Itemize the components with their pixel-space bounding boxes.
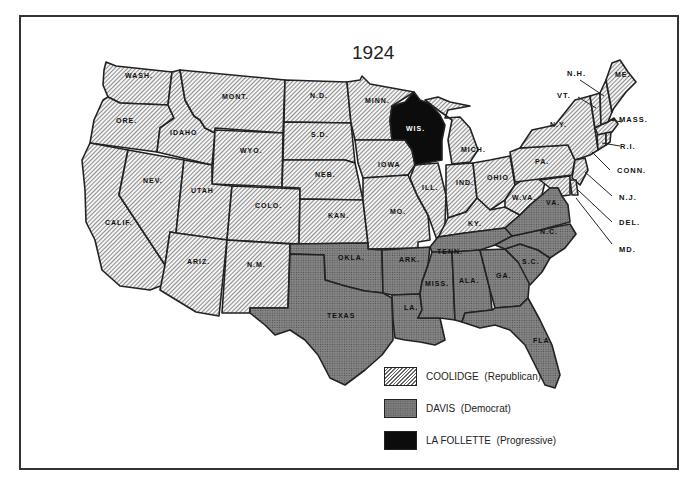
state-me[interactable] [606,60,636,112]
us-electoral-map: WASH. ORE. CALIF. IDAHO NEV. MONT. WYO. … [0,0,700,486]
svg-text:NEB.: NEB. [315,171,336,178]
svg-text:DEL.: DEL. [619,218,640,227]
svg-text:WYO.: WYO. [240,147,263,154]
state-sd[interactable] [283,122,355,163]
state-del[interactable] [570,180,578,195]
svg-text:ALA.: ALA. [459,277,479,284]
state-colo[interactable] [227,186,300,244]
svg-text:GA.: GA. [496,272,511,279]
svg-text:COLO.: COLO. [255,202,282,209]
svg-text:KAN.: KAN. [328,212,349,219]
state-ariz[interactable] [160,232,227,316]
svg-text:S.C.: S.C. [522,258,540,265]
svg-text:MICH.: MICH. [461,146,486,153]
svg-text:MONT.: MONT. [222,93,249,100]
legend: COOLIDGE (Republican) DAVIS (Democrat) L… [384,360,556,456]
svg-text:N.C.: N.C. [540,228,558,235]
svg-text:N.D.: N.D. [310,92,328,99]
state-nd[interactable] [284,80,351,123]
svg-text:MINN.: MINN. [365,97,390,104]
svg-text:OHIO: OHIO [487,174,509,181]
svg-text:MO.: MO. [390,208,406,215]
svg-text:MASS.: MASS. [619,115,648,124]
svg-text:NEV.: NEV. [143,177,163,184]
state-kan[interactable] [299,199,368,244]
hatched-swatch-icon [384,367,417,386]
state-wash[interactable] [103,62,172,105]
state-nm[interactable] [222,240,290,313]
svg-text:N.M.: N.M. [247,261,266,268]
svg-text:TENN.: TENN. [437,248,463,255]
svg-text:KY.: KY. [468,220,482,227]
svg-text:ILL.: ILL. [422,184,438,191]
svg-text:R.I.: R.I. [620,142,636,151]
black-swatch-icon [384,431,417,450]
svg-text:N.H.: N.H. [567,69,586,78]
svg-text:MISS.: MISS. [425,280,449,287]
svg-text:IOWA: IOWA [378,161,401,168]
svg-text:ME.: ME. [615,71,630,78]
state-conn[interactable] [597,133,606,150]
stippled-swatch-icon [384,399,417,418]
svg-text:S.D.: S.D. [311,131,329,138]
svg-text:VA.: VA. [546,199,560,206]
svg-text:LA.: LA. [404,304,418,311]
state-iowa[interactable] [355,140,415,178]
state-ri[interactable] [606,132,611,145]
svg-text:WIS.: WIS. [406,125,425,132]
legend-item-lafollette: LA FOLLETTE (Progressive) [384,424,556,456]
svg-text:VT.: VT. [557,91,571,100]
svg-text:N.J.: N.J. [619,193,637,202]
svg-text:MD.: MD. [619,245,636,254]
legend-item-davis: DAVIS (Democrat) [384,392,556,424]
svg-text:ARIZ.: ARIZ. [187,258,210,265]
svg-text:WASH.: WASH. [125,72,153,79]
svg-text:UTAH: UTAH [191,187,214,194]
legend-item-coolidge: COOLIDGE (Republican) [384,360,556,392]
svg-text:FLA.: FLA. [533,337,553,344]
state-wyo[interactable] [212,130,283,187]
svg-text:ORE.: ORE. [116,117,137,124]
svg-text:CALIF.: CALIF. [105,219,133,226]
svg-text:W.VA.: W.VA. [512,194,536,201]
svg-text:ARK.: ARK. [399,256,420,263]
svg-text:OKLA.: OKLA. [338,254,365,261]
svg-text:N.Y.: N.Y. [550,121,567,128]
svg-text:IDAHO: IDAHO [170,129,198,136]
svg-text:IND.: IND. [456,179,474,186]
svg-text:PA.: PA. [535,158,549,165]
svg-text:CONN.: CONN. [617,166,646,175]
svg-text:TEXAS: TEXAS [327,312,355,319]
